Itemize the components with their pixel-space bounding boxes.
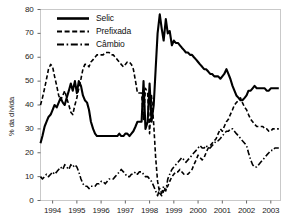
legend-item-cambio: Câmbio <box>56 38 131 51</box>
legend-label-selic: Selic <box>96 14 114 23</box>
y-tick-label: 20 <box>12 149 34 157</box>
y-axis-title: % da dívida <box>7 89 16 145</box>
legend-swatch-selic <box>56 14 90 23</box>
legend-swatch-prefixada <box>56 27 90 36</box>
legend-item-prefixada: Prefixada <box>56 25 131 38</box>
y-axis-title-text: % da dívida <box>7 97 16 136</box>
y-tick-label: 0 <box>12 197 34 205</box>
legend-label-cambio: Câmbio <box>96 40 125 49</box>
y-tick-label: 50 <box>12 77 34 85</box>
chart-container: 01020304050607080 1994199519961997199819… <box>0 0 286 220</box>
y-tick-label: 70 <box>12 29 34 37</box>
y-tick-label: 10 <box>12 173 34 181</box>
line-chart-plot <box>0 0 286 220</box>
y-tick-label: 60 <box>12 53 34 61</box>
legend-item-selic: Selic <box>56 12 131 25</box>
chart-legend: Selic Prefixada Câmbio <box>56 12 131 51</box>
y-tick-label: 80 <box>12 6 34 14</box>
x-tick-label: 2003 <box>254 207 286 215</box>
legend-label-prefixada: Prefixada <box>96 27 131 36</box>
legend-swatch-cambio <box>56 40 90 49</box>
